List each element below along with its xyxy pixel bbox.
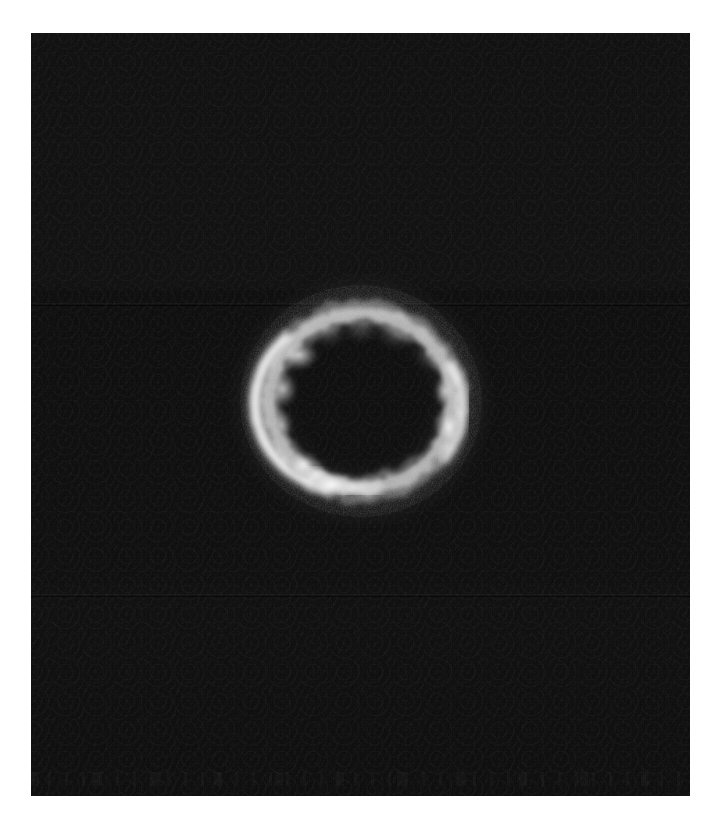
- scan-artifact-strip: [31, 772, 690, 786]
- image-panel: [31, 33, 690, 796]
- ring-svg: [31, 33, 690, 796]
- figure-page: [0, 0, 718, 828]
- einstein-ring: [31, 33, 690, 796]
- ring-geometry: [229, 275, 493, 527]
